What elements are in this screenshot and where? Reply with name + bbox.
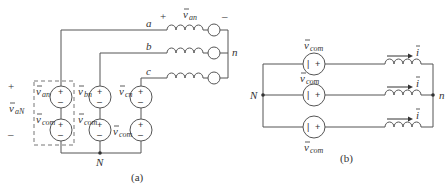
current-labels: i i i [416,46,420,121]
svg-text:v: v [119,85,124,97]
node-n-dot-b [431,93,435,97]
svg-text:v: v [78,85,83,97]
inductor-b1 [385,59,421,64]
svg-text:v: v [304,39,309,51]
svg-text:+: + [97,120,102,130]
right-bus [421,64,433,127]
labels-b: v com v com v com | + | + | + i i i [249,39,445,165]
left-voltage-plus: + [8,80,14,92]
load-b [208,47,220,59]
svg-text:com: com [310,146,324,155]
svg-text:v: v [9,102,14,114]
svg-text:i: i [416,77,419,89]
svg-text:+: + [58,87,63,97]
inductor-a [167,25,208,30]
svg-text:v: v [78,113,83,125]
svg-text:bn: bn [84,90,92,99]
line-label-a: a [146,17,152,29]
label-vcom-3: v com [304,141,324,155]
svg-text:+: + [315,122,320,132]
line-label-b: b [146,40,152,52]
svg-text:com: com [310,44,324,53]
source-links [61,108,141,119]
svg-text:an: an [189,13,197,22]
svg-text:v: v [36,85,41,97]
node-N-dot-b [261,93,265,97]
inductor-b [167,48,208,53]
labels-a: a b c + – v an n N (a) + v aN – v an v b [7,8,238,184]
node-n-label: n [232,46,238,58]
node-n-label-b: n [439,89,445,101]
caption-a: (a) [131,171,144,184]
caption-b: (b) [340,152,353,165]
svg-text:com: com [42,118,56,127]
svg-text:com: com [119,130,133,139]
label-vcom-b: v com [78,113,98,127]
circuit-b [261,53,435,138]
svg-text:v: v [183,8,188,20]
svg-text:–: – [58,130,63,140]
mid-wires [325,64,385,127]
svg-text:v: v [36,113,41,125]
svg-text:v: v [113,125,118,137]
label-vcn: v cn [119,85,133,99]
svg-text:+: + [138,120,143,130]
node-N-label: N [95,156,104,168]
left-voltage-label: v aN [9,102,25,116]
current-arrow-icon [387,54,413,122]
svg-text:i: i [416,109,419,121]
load-a [208,24,220,36]
svg-text:+: + [315,59,320,69]
top-voltage-label: v an [183,8,197,22]
inductor-c [167,73,208,78]
svg-text:–: – [97,97,102,107]
svg-text:v: v [300,72,305,84]
svg-text:cn: cn [125,90,133,99]
wire-c [141,78,167,86]
svg-text:–: – [97,130,102,140]
label-vcom-1: v com [304,39,324,53]
wire-b [100,53,167,86]
inductor-b2 [385,90,421,95]
svg-text:com: com [84,118,98,127]
svg-text:com: com [306,77,320,86]
top-voltage-plus: + [160,10,166,22]
svg-text:aN: aN [15,107,25,116]
svg-text:|: | [307,122,309,132]
line-label-c: c [146,65,151,77]
label-vbn: v bn [78,85,92,99]
svg-text:+: + [138,87,143,97]
neutral-n-bus [220,30,228,78]
svg-text:|: | [307,59,309,69]
svg-text:i: i [416,46,419,58]
load-c [208,72,220,84]
svg-text:+: + [97,87,102,97]
svg-text:an: an [42,90,50,99]
svg-text:–: – [138,97,143,107]
svg-text:–: – [138,130,143,140]
svg-text:|: | [307,90,309,100]
node-N-label-b: N [249,89,258,101]
svg-text:v: v [304,141,309,153]
bottom-bus [61,141,141,153]
left-voltage-minus: – [7,128,14,140]
left-bus [263,64,303,127]
svg-text:+: + [58,120,63,130]
svg-text:–: – [58,97,63,107]
label-van: v an [36,85,50,99]
label-vcom-a: v com [36,113,56,127]
label-vcom-c: v com [113,125,133,139]
inductor-b3 [385,122,421,127]
node-N-dot [98,151,102,155]
top-voltage-minus: – [221,10,228,22]
svg-text:+: + [315,90,320,100]
